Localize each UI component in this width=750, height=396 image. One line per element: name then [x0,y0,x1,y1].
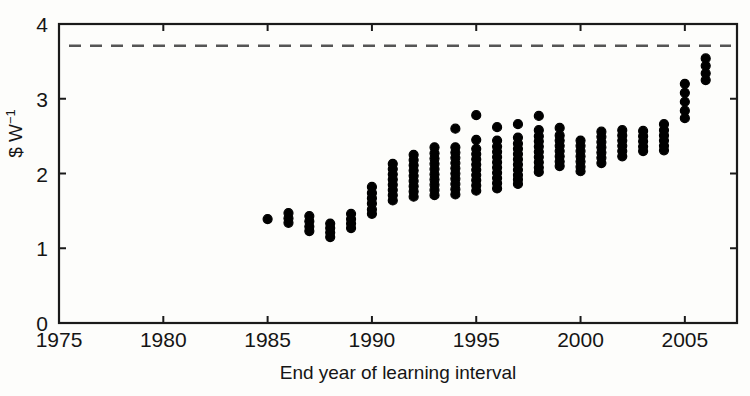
data-point [430,191,439,200]
data-point [618,152,627,161]
data-point [659,146,668,155]
data-point [347,224,356,233]
axis-ticks [59,24,737,323]
data-point [680,114,689,123]
figure-container: 1975198019851990199520002005 01234 End y… [0,0,750,396]
x-tick-label: 1990 [349,328,396,351]
data-point [639,147,648,156]
y-tick-labels: 01234 [36,13,48,335]
x-tick-label: 1980 [140,328,187,351]
y-axis-title-text: $ W−1 [3,109,26,158]
data-point [513,179,522,188]
y-axis-title: $ W−1 [3,109,26,158]
data-point [263,215,272,224]
data-point [701,76,710,85]
data-point [555,162,564,171]
data-point [472,186,481,195]
data-point [534,111,543,120]
data-point [680,88,689,97]
y-tick-label: 2 [36,163,48,186]
data-point [534,168,543,177]
data-point [326,233,335,242]
data-points [263,54,710,242]
data-point [367,209,376,218]
scatter-plot: 1975198019851990199520002005 01234 End y… [0,0,750,396]
data-point [680,97,689,106]
y-tick-label: 0 [36,312,48,335]
y-tick-label: 1 [36,237,48,260]
data-point [451,190,460,199]
x-tick-label: 2000 [557,328,604,351]
x-axis-title: End year of learning interval [280,362,517,383]
data-point [472,111,481,120]
data-point [409,192,418,201]
x-tick-labels: 1975198019851990199520002005 [36,328,709,351]
data-point [513,120,522,129]
x-tick-label: 2005 [661,328,708,351]
axes-frame [59,24,737,323]
y-tick-label: 3 [36,88,48,111]
data-point [284,218,293,227]
data-point [597,159,606,168]
x-axis-title-text: End year of learning interval [280,362,517,383]
data-point [305,227,314,236]
data-point [576,167,585,176]
data-point [680,79,689,88]
data-point [451,124,460,133]
data-point [493,184,502,193]
data-point [388,196,397,205]
data-point [472,135,481,144]
x-tick-label: 1985 [244,328,291,351]
y-tick-label: 4 [36,13,48,36]
x-tick-label: 1995 [453,328,500,351]
data-point [493,123,502,132]
